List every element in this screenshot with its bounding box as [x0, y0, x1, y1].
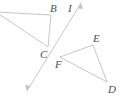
- transversal-line: [25, 3, 83, 91]
- right-triangle: [60, 45, 107, 82]
- figure-canvas: B I C E F D: [0, 0, 121, 98]
- label-E: E: [92, 32, 100, 44]
- label-F: F: [54, 58, 62, 70]
- label-C: C: [40, 48, 48, 60]
- label-I: I: [67, 2, 73, 14]
- geometry-figure: B I C E F D: [0, 0, 121, 98]
- label-D: D: [107, 83, 116, 95]
- left-triangle: [0, 12, 51, 47]
- label-B: B: [50, 2, 57, 14]
- transversal-segment: [27, 3, 81, 91]
